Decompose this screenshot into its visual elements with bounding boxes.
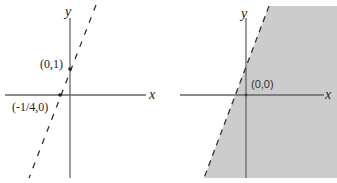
left-boundary-line	[29, 5, 96, 178]
right-test-point-label: (0,0)	[251, 78, 274, 90]
left-point-label-0-1: (0,1)	[40, 57, 63, 71]
left-point-neg-quarter-0	[58, 93, 62, 97]
left-point-0-1	[68, 67, 72, 71]
right-x-label: x	[324, 87, 332, 102]
graphs-canvas: y x (0,1) (-1/4,0) y x (0,0)	[0, 0, 337, 183]
left-graph: y x (0,1) (-1/4,0)	[5, 4, 156, 178]
left-x-label: x	[148, 87, 156, 102]
right-origin-point	[245, 94, 248, 97]
right-shaded-region	[204, 6, 337, 178]
right-graph: y x (0,0)	[180, 6, 337, 178]
left-point-label-neg-quarter: (-1/4,0)	[12, 100, 48, 114]
right-y-label: y	[239, 6, 248, 21]
left-y-label: y	[63, 4, 72, 19]
